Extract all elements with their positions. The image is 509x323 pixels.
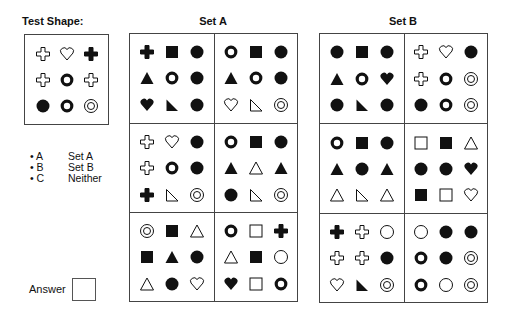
panel-2 <box>404 34 488 123</box>
heart-outline-icon <box>324 272 349 298</box>
square-outline-icon <box>409 129 434 155</box>
triangle-outline-icon <box>184 218 209 244</box>
cross-filled-icon <box>79 41 103 67</box>
circle-double-icon <box>459 272 484 298</box>
triangle-filled-icon <box>269 155 294 181</box>
rtriangle-filled-icon <box>349 92 374 118</box>
triangle-filled-icon <box>159 244 184 270</box>
circle-filled-icon <box>269 129 294 155</box>
ring-icon <box>434 65 459 91</box>
circle-filled-icon <box>409 92 434 118</box>
set-b-title: Set B <box>319 15 487 27</box>
shape-grid <box>409 129 485 208</box>
rtriangle-outline-icon <box>244 182 269 208</box>
circle-filled-icon <box>31 93 55 119</box>
circle-filled-icon <box>219 182 244 208</box>
cross-filled-icon <box>134 182 159 208</box>
panel-1 <box>320 34 404 123</box>
cross-filled-icon <box>134 39 159 65</box>
square-filled-icon <box>349 129 374 155</box>
shape-grid <box>324 39 400 118</box>
heart-outline-icon <box>55 41 79 67</box>
circle-filled-icon <box>324 92 349 118</box>
set-a-title: Set A <box>129 15 297 27</box>
cross-outline-icon <box>134 155 159 181</box>
options-legend: • ASet A • BSet B • CNeither <box>30 151 102 184</box>
heart-filled-icon <box>374 65 399 91</box>
triangle-outline-icon <box>374 182 399 208</box>
circle-filled-icon <box>459 39 484 65</box>
circle-filled-icon <box>184 39 209 65</box>
set-a-box <box>129 33 298 302</box>
shape-grid <box>324 219 400 298</box>
triangle-filled-icon <box>324 156 349 182</box>
circle-filled-icon <box>184 92 209 118</box>
circle-filled-icon <box>434 245 459 271</box>
circle-filled-icon <box>374 39 399 65</box>
square-outline-icon <box>244 218 269 244</box>
circle-double-icon <box>459 245 484 271</box>
heart-filled-icon <box>459 156 484 182</box>
test-shape-box <box>24 34 109 125</box>
circle-double-icon <box>269 92 294 118</box>
panel-3 <box>130 123 214 212</box>
cross-outline-icon <box>31 41 55 67</box>
set-b-box <box>319 33 488 303</box>
circle-outline-icon <box>269 244 294 270</box>
ring-icon <box>219 39 244 65</box>
shape-grid <box>324 129 400 208</box>
triangle-outline-icon <box>219 244 244 270</box>
ring-icon <box>219 218 244 244</box>
circle-double-icon <box>459 65 484 91</box>
ring-icon <box>55 93 79 119</box>
shape-grid <box>219 218 295 297</box>
shape-grid <box>409 39 485 118</box>
panel-1 <box>130 34 214 123</box>
shape-grid <box>134 39 210 118</box>
square-filled-icon <box>244 129 269 155</box>
ring-icon <box>409 272 434 298</box>
rtriangle-outline-icon <box>244 92 269 118</box>
ring-icon <box>409 245 434 271</box>
triangle-filled-icon <box>219 155 244 181</box>
triangle-outline-icon <box>134 271 159 297</box>
square-outline-icon <box>244 271 269 297</box>
circle-filled-icon <box>184 65 209 91</box>
cross-filled-icon <box>269 218 294 244</box>
triangle-filled-icon <box>134 65 159 91</box>
ring-icon <box>159 155 184 181</box>
cross-outline-icon <box>79 67 103 93</box>
square-outline-icon <box>434 182 459 208</box>
heart-filled-icon <box>219 271 244 297</box>
answer-input[interactable] <box>72 278 96 301</box>
square-filled-icon <box>244 244 269 270</box>
cross-outline-icon <box>409 39 434 65</box>
panel-2 <box>214 34 298 123</box>
test-shape-title: Test Shape: <box>22 15 102 27</box>
circle-filled-icon <box>184 129 209 155</box>
circle-outline-icon <box>409 219 434 245</box>
panel-5 <box>320 213 404 302</box>
rtriangle-outline-icon <box>159 182 184 208</box>
panel-4 <box>214 123 298 212</box>
circle-filled-icon <box>459 219 484 245</box>
circle-double-icon <box>134 218 159 244</box>
circle-outline-icon <box>434 272 459 298</box>
heart-outline-icon <box>459 182 484 208</box>
answer-label: Answer <box>29 283 66 295</box>
square-filled-icon <box>434 129 459 155</box>
rtriangle-filled-icon <box>349 272 374 298</box>
ring-icon <box>219 129 244 155</box>
square-filled-icon <box>159 39 184 65</box>
heart-outline-icon <box>159 129 184 155</box>
triangle-outline-icon <box>459 129 484 155</box>
panel-5 <box>130 212 214 301</box>
circle-filled-icon <box>184 244 209 270</box>
circle-double-icon <box>374 272 399 298</box>
circle-filled-icon <box>324 39 349 65</box>
option-c: • CNeither <box>30 173 102 184</box>
circle-filled-icon <box>374 245 399 271</box>
circle-filled-icon <box>409 156 434 182</box>
cross-outline-icon <box>409 65 434 91</box>
ring-icon <box>244 65 269 91</box>
